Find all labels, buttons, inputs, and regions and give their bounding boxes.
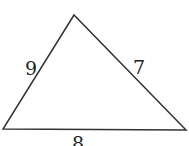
side-label-left: 9 (25, 57, 37, 79)
side-label-right: 7 (133, 56, 145, 78)
triangle-diagram: 9 7 8 (0, 0, 189, 146)
side-label-bottom: 8 (72, 132, 84, 146)
